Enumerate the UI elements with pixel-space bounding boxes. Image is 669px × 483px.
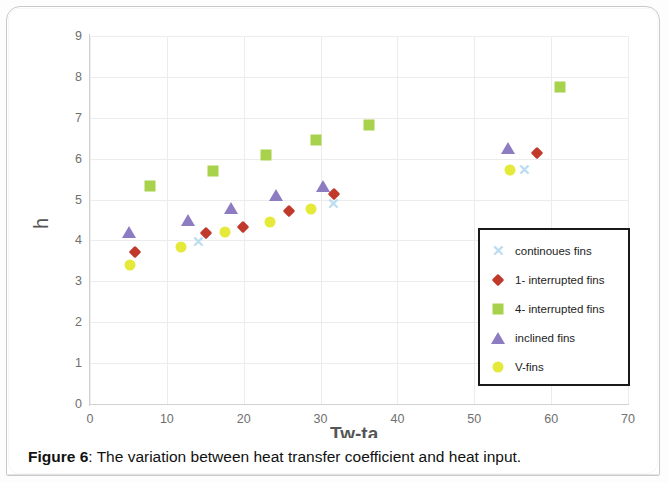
y-axis-tick-label: 2 (56, 315, 82, 329)
legend-marker (489, 302, 507, 316)
legend-item: V-fins (480, 352, 628, 381)
data-point (144, 181, 155, 192)
gridline-horizontal (90, 118, 628, 119)
y-axis-line (89, 34, 90, 406)
marker-circle (493, 361, 504, 372)
legend-item: 4- interrupted fins (480, 294, 628, 323)
x-axis-tick-label: 10 (147, 412, 187, 426)
gridline-horizontal (90, 200, 628, 201)
x-axis-tick-label: 60 (531, 412, 571, 426)
gridline-vertical (244, 36, 245, 404)
y-axis-title: h (30, 218, 53, 229)
data-point (264, 217, 275, 228)
gridline-vertical (321, 36, 322, 404)
data-point (181, 214, 195, 226)
legend-label: 1- interrupted fins (515, 274, 605, 286)
data-point (224, 202, 238, 214)
data-point (220, 227, 231, 238)
marker-triangle (491, 332, 505, 344)
gridline-horizontal (90, 77, 628, 78)
y-axis-tick-label: 5 (56, 193, 82, 207)
legend-item: 1- interrupted fins (480, 265, 628, 294)
legend-label: continoues fins (515, 245, 592, 257)
marker-square (493, 303, 504, 314)
page-bottom-rule (8, 474, 658, 475)
legend-marker (489, 273, 507, 287)
legend-marker: ✕ (489, 244, 507, 258)
y-axis-tick-label: 0 (56, 397, 82, 411)
x-axis-tick-label: 50 (454, 412, 494, 426)
data-point (122, 226, 136, 238)
x-axis-tick-label: 40 (377, 412, 417, 426)
data-point (554, 82, 565, 93)
data-point (363, 120, 374, 131)
data-point (269, 189, 283, 201)
data-point (306, 203, 317, 214)
x-axis-tick-label: 0 (70, 412, 110, 426)
figure-caption: Figure 6: The variation between heat tra… (28, 448, 648, 466)
data-point (207, 165, 218, 176)
y-axis-tick-label: 1 (56, 356, 82, 370)
data-point (124, 259, 135, 270)
y-axis-tick-label: 7 (56, 111, 82, 125)
figure-caption-label: Figure 6 (28, 448, 88, 465)
scanned-page: 0123456789 010203040506070 h Tw-ta ✕✕✕ ✕… (0, 0, 669, 483)
y-axis-tick-label: 6 (56, 152, 82, 166)
x-axis-title: Tw-ta (330, 424, 378, 438)
x-axis-tick-label: 20 (224, 412, 264, 426)
data-point (261, 149, 272, 160)
gridline-vertical (167, 36, 168, 404)
data-point: ✕ (192, 236, 204, 248)
data-point (316, 180, 330, 192)
data-point: ✕ (327, 198, 339, 210)
data-point: ✕ (518, 164, 530, 176)
gridline-vertical (90, 36, 91, 404)
gridline-horizontal (90, 159, 628, 160)
x-axis-line (89, 404, 629, 405)
x-axis-tick-label: 70 (608, 412, 648, 426)
data-point (176, 241, 187, 252)
legend-label: 4- interrupted fins (515, 303, 605, 315)
figure-caption-text: : The variation between heat transfer co… (88, 448, 521, 465)
legend-marker (489, 360, 507, 374)
marker-x: ✕ (492, 245, 504, 257)
legend-label: V-fins (515, 361, 544, 373)
data-point (501, 142, 515, 154)
gridline-horizontal (90, 36, 628, 37)
gridline-vertical (474, 36, 475, 404)
y-axis-tick-label: 8 (56, 70, 82, 84)
figure-6-chart: 0123456789 010203040506070 h Tw-ta ✕✕✕ ✕… (0, 0, 669, 440)
legend-marker (489, 331, 507, 345)
data-point (504, 164, 515, 175)
y-axis-tick-label: 3 (56, 274, 82, 288)
marker-diamond (492, 273, 505, 286)
legend-item: inclined fins (480, 323, 628, 352)
legend-label: inclined fins (515, 332, 575, 344)
chart-legend: ✕continoues fins1- interrupted fins4- in… (478, 228, 630, 386)
data-point (310, 134, 321, 145)
legend-item: ✕continoues fins (480, 236, 628, 265)
y-axis-tick-label: 4 (56, 233, 82, 247)
gridline-vertical (397, 36, 398, 404)
y-axis-tick-label: 9 (56, 29, 82, 43)
